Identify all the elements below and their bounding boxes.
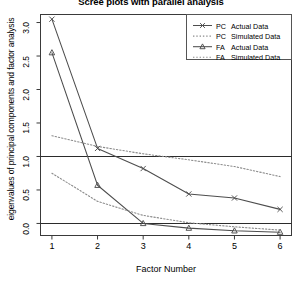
series-line-fa_actual — [52, 53, 280, 232]
legend-item-label: PCSimulated Data — [216, 32, 280, 41]
marker-x-pc_actual — [141, 166, 146, 171]
legend-item-group: PC — [216, 32, 231, 41]
legend-item-group: FA — [216, 43, 231, 52]
legend-item-label: PCActual Data — [216, 22, 268, 31]
legend-item-label: FASimulated Data — [216, 53, 280, 62]
legend-item-pc-actual-data: PCActual Data — [187, 20, 291, 31]
scree-plot-figure: Scree plots with parallel analysis eigen… — [0, 0, 302, 282]
legend-item-fa-simulated-data: FASimulated Data — [187, 52, 291, 63]
legend-item-group: FA — [216, 53, 231, 62]
marker-x-pc_actual — [49, 17, 54, 22]
legend: PCActual DataPCSimulated DataFAActual Da… — [186, 14, 292, 60]
legend-item-label: FAActual Data — [216, 43, 268, 52]
legend-item-pc-simulated-data: PCSimulated Data — [187, 31, 291, 42]
legend-item-fa-actual-data: FAActual Data — [187, 41, 291, 52]
legend-item-group: PC — [216, 22, 231, 31]
